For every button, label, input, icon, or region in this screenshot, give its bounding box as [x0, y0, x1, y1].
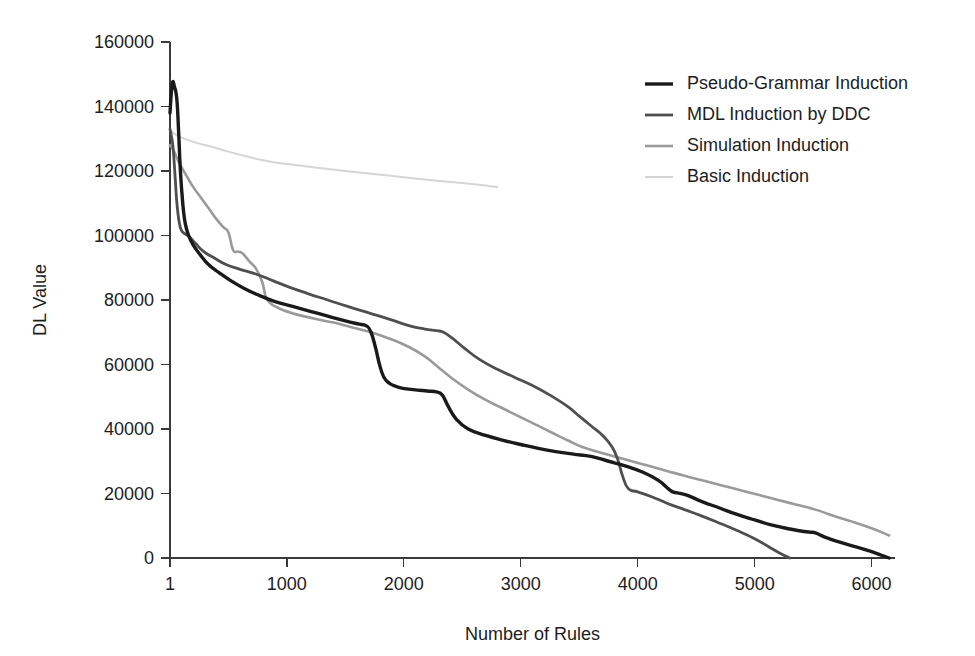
line-chart: 0200004000060000800001000001200001400001…: [0, 0, 975, 656]
y-axis-ticks: 0200004000060000800001000001200001400001…: [94, 32, 170, 568]
chart-legend: Pseudo-Grammar InductionMDL Induction by…: [645, 73, 908, 186]
series-line-simulation-induction: [170, 145, 889, 535]
chart-container: 0200004000060000800001000001200001400001…: [0, 0, 975, 656]
series-line-mdl-induction-by-ddc: [170, 129, 790, 558]
legend-label-3: Simulation Induction: [687, 135, 849, 155]
y-tick-label: 160000: [94, 32, 154, 52]
x-tick-label: 5000: [735, 574, 775, 594]
x-tick-label: 6000: [852, 574, 892, 594]
y-tick-label: 40000: [104, 419, 154, 439]
x-tick-label: 4000: [618, 574, 658, 594]
legend-label-1: Pseudo-Grammar Induction: [687, 73, 908, 93]
y-axis-title: DL Value: [30, 264, 50, 336]
x-axis-ticks: 1100020003000400050006000: [165, 558, 892, 594]
x-axis-title: Number of Rules: [465, 624, 600, 644]
legend-label-2: MDL Induction by DDC: [687, 104, 870, 124]
series-line-basic-induction: [170, 129, 497, 187]
legend-label-4: Basic Induction: [687, 166, 809, 186]
x-tick-label: 2000: [384, 574, 424, 594]
y-tick-label: 80000: [104, 290, 154, 310]
y-tick-label: 120000: [94, 161, 154, 181]
y-tick-label: 0: [144, 548, 154, 568]
y-tick-label: 100000: [94, 226, 154, 246]
x-tick-label: 1: [165, 574, 175, 594]
x-tick-label: 3000: [501, 574, 541, 594]
y-tick-label: 140000: [94, 97, 154, 117]
y-tick-label: 20000: [104, 484, 154, 504]
x-tick-label: 1000: [267, 574, 307, 594]
y-tick-label: 60000: [104, 355, 154, 375]
